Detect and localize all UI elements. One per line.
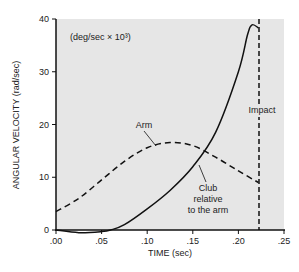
club-label-line1: Club: [199, 183, 218, 193]
y-tick-label: 0: [44, 225, 49, 235]
y-tick-label: 10: [39, 172, 49, 182]
arm-label: Arm: [136, 120, 153, 130]
club-label-line3: to the arm: [188, 205, 229, 215]
impact-label: Impact: [248, 105, 276, 115]
y-tick-label: 20: [39, 120, 49, 130]
x-tick-label: .05: [95, 236, 108, 246]
x-tick-label: .15: [187, 236, 200, 246]
x-tick-label: .20: [232, 236, 245, 246]
x-tick-label: .10: [141, 236, 154, 246]
chart: 010203040 5101520 .00.05.10.15.20.25 Imp…: [0, 0, 299, 272]
y-axis-title: ANGULAR VELOCITY (rad/sec): [11, 61, 21, 189]
club-label-line2: relative: [193, 194, 222, 204]
plot-area: [56, 19, 284, 230]
x-axis-title: TIME (sec): [148, 248, 192, 258]
x-tick-label: .00: [50, 236, 63, 246]
secondary-axis-label: (deg/sec × 10³): [70, 32, 131, 42]
y-tick-label: 30: [39, 67, 49, 77]
y-tick-label: 40: [39, 14, 49, 24]
x-tick-label: .25: [278, 236, 291, 246]
y-ticks: 010203040: [39, 14, 56, 235]
